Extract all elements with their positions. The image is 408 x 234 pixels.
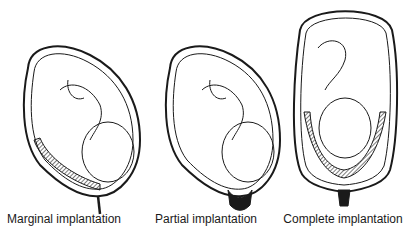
- label-complete-implantation: Complete implantation: [283, 212, 402, 226]
- label-marginal-implantation: Marginal implantation: [7, 212, 121, 226]
- diagram-canvas: Marginal implantation Partial implantati…: [0, 0, 408, 234]
- uterus-marginal: [24, 46, 140, 214]
- uterus-partial: [166, 46, 280, 210]
- placenta-partial: [228, 190, 252, 210]
- placenta-marginal: [34, 138, 100, 190]
- placenta-complete: [304, 112, 386, 178]
- uterus-complete: [294, 11, 397, 206]
- illustration: [0, 0, 408, 234]
- label-partial-implantation: Partial implantation: [155, 212, 257, 226]
